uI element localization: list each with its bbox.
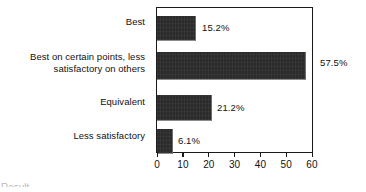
x-axis-tick-label: 60: [306, 159, 317, 171]
x-axis-tick: [234, 152, 235, 157]
plot-inner: 15.2% 21.2% 6.1%: [157, 8, 312, 152]
plot-area: 15.2% 21.2% 6.1%: [156, 7, 313, 153]
bar-equivalent: [157, 95, 212, 121]
category-label-less-satisfactory: Less satisfactory: [0, 130, 151, 142]
chart-figure: Best Best on certain points, less satisf…: [0, 0, 366, 192]
category-label-line: satisfactory on others: [54, 63, 145, 74]
x-axis-tick: [260, 152, 261, 157]
category-label-line: Best: [126, 16, 145, 27]
category-label-line: Equivalent: [100, 96, 145, 107]
x-axis-tick-label: 40: [255, 159, 266, 171]
bar-value-best-on-certain-points: 57.5%: [320, 58, 347, 68]
x-axis: 0 10 20 30 40 50 60: [156, 152, 313, 190]
category-label-line: Best on certain points, less: [30, 51, 145, 62]
category-label-equivalent: Equivalent: [0, 96, 151, 108]
x-axis-tick-label: 50: [281, 159, 292, 171]
category-label-best: Best: [0, 16, 151, 28]
x-axis-tick: [182, 152, 183, 157]
category-label-best-on-certain-points: Best on certain points, less satisfactor…: [0, 51, 151, 74]
x-axis-tick-label: 0: [154, 159, 160, 171]
clipped-caption-text: Result: [1, 183, 29, 187]
bar-less-satisfactory: [157, 129, 173, 154]
bar-best: [157, 16, 196, 41]
x-axis-tick: [208, 152, 209, 157]
x-axis-tick-label: 20: [203, 159, 214, 171]
x-axis-tick-label: 30: [229, 159, 240, 171]
bar-value-best: 15.2%: [202, 23, 229, 33]
x-axis-tick: [286, 152, 287, 157]
x-axis-tick-label: 10: [177, 159, 188, 171]
bar-best-on-certain-points: [157, 52, 306, 80]
x-axis-tick: [157, 152, 158, 157]
bar-value-equivalent: 21.2%: [217, 103, 244, 113]
category-axis-labels: Best Best on certain points, less satisf…: [0, 7, 151, 152]
category-label-line: Less satisfactory: [73, 130, 145, 141]
x-axis-tick: [312, 152, 313, 157]
bar-value-less-satisfactory: 6.1%: [178, 136, 200, 146]
